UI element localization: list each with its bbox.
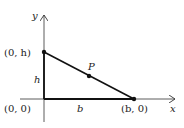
point-right: [132, 97, 136, 101]
point-top-label: (0, h): [4, 47, 31, 58]
point-p-label: P: [87, 61, 95, 72]
base-label: b: [77, 103, 83, 114]
x-axis-label: x: [170, 103, 176, 114]
point-p: [87, 74, 91, 78]
triangle-diagram: y x (0, h) (0, 0) (b, 0) P h b: [0, 0, 184, 128]
point-top: [42, 50, 46, 54]
y-axis-label: y: [31, 10, 38, 21]
point-right-label: (b, 0): [121, 103, 148, 114]
height-label: h: [34, 74, 40, 85]
point-origin-label: (0, 0): [4, 103, 31, 114]
